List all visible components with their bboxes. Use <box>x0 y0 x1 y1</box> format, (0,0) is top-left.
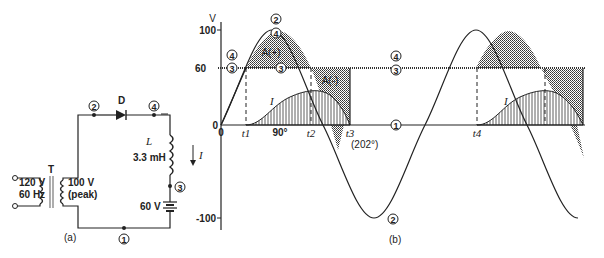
secondary-voltage-label: 100 V <box>68 177 94 188</box>
figure: 2 4 3 1 120 V 60 Hz T 100 V (peak) D L 3… <box>0 0 604 258</box>
current-label: I <box>198 149 204 161</box>
svg-text:3: 3 <box>278 64 283 74</box>
svg-text:2: 2 <box>390 215 395 225</box>
inductor-value-label: 3.3 mH <box>133 152 166 163</box>
svg-text:4: 4 <box>393 52 398 62</box>
y-axis-label: V <box>209 13 216 24</box>
svg-text:4: 4 <box>229 51 234 61</box>
node-4-marker: 4 <box>149 101 159 112</box>
chart-node-3-right: 3 <box>391 65 401 76</box>
inductor-coil <box>170 135 173 175</box>
source-terminal-top <box>13 176 18 181</box>
area-positive-label: A(+) <box>261 47 280 58</box>
svg-text:4: 4 <box>273 29 278 39</box>
xtick-t3: t3 <box>346 127 355 139</box>
svg-text:3: 3 <box>177 183 182 193</box>
current-curve-label-1: I <box>269 95 275 107</box>
waveform-chart: V 100 60 0 -100 0 t1 90° t2 t3 t4 (202°)… <box>195 13 585 245</box>
ytick-minus-100: -100 <box>196 213 216 224</box>
caption-a: (a) <box>64 232 76 243</box>
chart-node-2-peak: 2 <box>271 14 281 25</box>
inductor-symbol-label: L <box>145 135 152 147</box>
transformer-label: T <box>48 164 54 175</box>
svg-text:1: 1 <box>121 235 126 245</box>
angle-202-annotation: (202°) <box>351 139 378 150</box>
xtick-0: 0 <box>218 127 224 138</box>
diode-label: D <box>118 95 125 106</box>
xtick-t4: t4 <box>473 127 482 139</box>
svg-text:2: 2 <box>91 102 96 112</box>
svg-text:2: 2 <box>273 15 278 25</box>
xtick-t2: t2 <box>307 127 316 139</box>
svg-text:3: 3 <box>393 66 398 76</box>
diode-symbol <box>116 110 126 120</box>
chart-node-1: 1 <box>391 120 401 131</box>
chart-node-4-peak: 4 <box>271 28 281 39</box>
source-voltage-label: 120 V <box>19 177 45 188</box>
node-1-dot <box>122 226 126 230</box>
caption-b: (b) <box>389 234 401 245</box>
node-4-dot <box>152 113 156 117</box>
node-2-dot <box>92 113 96 117</box>
battery-value-label: 60 V <box>140 201 161 212</box>
source-frequency-label: 60 Hz <box>19 189 45 200</box>
chart-node-4-right: 4 <box>391 51 401 62</box>
node-3-dot <box>168 184 172 188</box>
xtick-90: 90° <box>272 127 287 138</box>
chart-node-3-mid: 3 <box>276 63 286 74</box>
svg-text:3: 3 <box>229 64 234 74</box>
chart-node-4-left: 4 <box>227 50 237 61</box>
ytick-100: 100 <box>199 25 216 36</box>
node-2-marker: 2 <box>89 101 99 112</box>
xtick-t1: t1 <box>242 127 251 139</box>
node-1-marker: 1 <box>119 234 129 245</box>
chart-node-3-left: 3 <box>227 63 237 74</box>
source-terminal-bottom <box>13 204 18 209</box>
secondary-peak-label: (peak) <box>68 189 97 200</box>
circuit-diagram: 2 4 3 1 120 V 60 Hz T 100 V (peak) D L 3… <box>13 95 205 245</box>
node-3-marker: 3 <box>175 182 185 193</box>
svg-text:1: 1 <box>393 121 398 131</box>
svg-text:4: 4 <box>151 102 156 112</box>
chart-node-2-trough: 2 <box>388 214 398 225</box>
transformer-secondary-coil <box>61 180 64 204</box>
node-4-ramp <box>221 68 246 125</box>
area-negative-label: A(-) <box>322 75 339 86</box>
ytick-60: 60 <box>195 63 207 74</box>
